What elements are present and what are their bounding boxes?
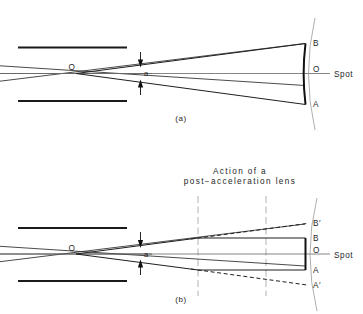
panel-a-angle-arrow-bottom-head [138,80,143,88]
panel-a-screen-center-label: O [313,65,320,74]
panel-b-top-edge-label: B [313,234,319,243]
panel-a-caption: (a) [175,114,187,123]
panel-b-angle-arrow-bottom-head [138,260,143,268]
panel-a-screen-arc [309,18,316,130]
panel-b-title-line-2: post−acceleration lens [184,177,297,186]
panel-b-virtual-ray-lower [191,269,307,285]
optics-figure-svg: O a B O A Spot (a) Action of a post−acce… [0,0,363,314]
panel-b-bottom-virtual-label: A′ [313,281,321,290]
panel-b-screen-center-label: O [313,246,320,255]
figure-root: O a B O A Spot (a) Action of a post−acce… [0,0,363,314]
panel-b-screen-arc [310,198,317,311]
panel-a-top-edge-label: B [313,39,319,48]
panel-b-title-line-1: Action of a [213,167,267,176]
panel-b-envelope-upper-diverging [76,238,198,254]
panel-a-group: O a B O A Spot (a) [0,18,353,130]
panel-b-top-virtual-label: B′ [313,219,321,228]
panel-b-envelope-lower-diverging [76,254,198,270]
panel-a-spot-label: Spot [334,70,353,79]
panel-b-group: Action of a post−acceleration lens [0,167,353,311]
panel-a-spot-bar [304,44,306,105]
panel-b-angle-label: a [144,250,149,259]
panel-b-spot-label: Spot [334,251,353,260]
panel-b-caption: (b) [175,295,187,304]
panel-b-crossover-label: O [69,244,76,253]
panel-a-crossover-label: O [69,63,76,72]
panel-a-bottom-edge-label: A [313,100,319,109]
panel-b-bottom-edge-label: A [313,266,319,275]
panel-a-angle-label: a [144,69,149,78]
